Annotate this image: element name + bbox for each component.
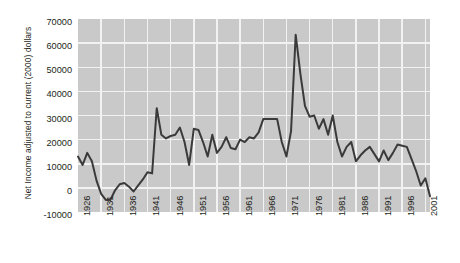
series-net-income [78, 19, 430, 212]
plot-area [78, 19, 430, 212]
line-chart: Net Income adjusted to current (2000) do… [0, 0, 460, 263]
y-axis-title: Net Income adjusted to current (2000) do… [23, 3, 33, 223]
